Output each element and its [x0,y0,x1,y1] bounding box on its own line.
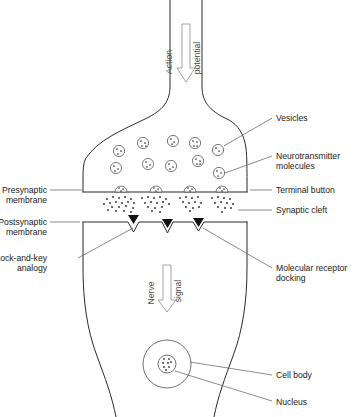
label-presynaptic-membrane-line2: membrane [6,195,47,205]
label-postsynaptic-membrane-line1: Postsynaptic [0,217,48,227]
label-molecular-receptor-docking-line2: docking [276,273,306,283]
leader-vesicles [224,118,272,146]
vesicle [192,155,203,166]
vesicle [213,167,224,178]
action-potential-label-word2: potential [192,42,202,75]
label-postsynaptic-membrane-line2: membrane [6,227,47,237]
release-site [216,186,228,192]
label-lock-and-key-analogy-line2: analogy [17,263,48,273]
label-synaptic-cleft: Synaptic cleft [276,205,328,215]
vesicle-group [110,135,224,178]
leader-neurotransmitter [225,156,272,173]
label-neurotransmitter-molecules-line1: Neurotransmitter [276,151,340,161]
molecular-receptor-icon [128,215,139,224]
molecular-receptor-icon [162,219,173,228]
release-site [115,186,127,192]
synapse-diagram: Action potential [0,0,361,417]
leader-lock-and-key [78,228,133,258]
label-terminal-button: Terminal button [276,185,335,195]
presynaptic-neuron-outline [83,0,247,192]
vesicle [110,162,121,173]
label-nucleus: Nucleus [276,397,307,407]
nerve-signal-label-word1: Nerve [146,281,156,304]
leader-cell-body [190,362,272,375]
release-site-group [115,186,228,192]
vesicle [142,158,153,169]
label-neurotransmitter-molecules-line2: molecules [276,161,315,171]
vesicle [167,135,178,146]
release-site [184,186,196,192]
diagram-canvas: Action potential [0,0,361,417]
vesicle [189,137,200,148]
label-lock-and-key-analogy-line1: Lock-and-key [0,253,48,263]
action-potential-label-word1: Action [164,50,174,74]
vesicle [137,137,148,148]
vesicle [212,144,223,155]
label-vesicles: Vesicles [276,113,308,123]
nucleus-group [143,340,191,388]
label-molecular-receptor-docking-line1: Molecular receptor [276,263,347,273]
leader-nucleus [175,371,272,401]
neurotransmitter-molecules [103,196,234,213]
nucleus-circle [158,355,176,373]
label-presynaptic-membrane-line1: Presynaptic [2,185,48,195]
label-cell-body: Cell body [276,370,313,380]
vesicle [165,160,176,171]
leader-receptor-docking [203,228,272,268]
release-site [150,186,162,192]
nerve-signal-label-word2: signal [173,280,183,303]
vesicle [113,145,124,156]
